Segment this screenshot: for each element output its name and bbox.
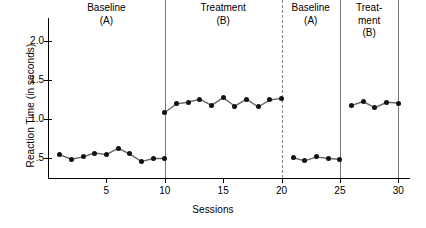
x-axis-line	[48, 178, 410, 179]
phase-label-line: (A)	[282, 15, 340, 28]
plot-area: Baseline(A)Treatment(B)Baseline(A)Treat-…	[48, 18, 410, 178]
y-tick-mark	[44, 158, 52, 159]
data-point	[349, 103, 354, 108]
data-point	[127, 151, 132, 156]
y-tick-label: 1.0	[18, 114, 44, 124]
phase-line-1	[60, 148, 165, 161]
data-point	[314, 154, 319, 159]
data-point	[326, 156, 331, 161]
data-point	[232, 104, 237, 109]
x-tick-mark	[106, 178, 107, 183]
data-point	[151, 156, 156, 161]
data-point	[81, 154, 86, 159]
x-tick-label: 30	[386, 186, 410, 196]
data-point	[302, 158, 307, 163]
phase-label-line: (B)	[165, 15, 282, 28]
data-point	[209, 103, 214, 108]
data-point	[139, 159, 144, 164]
data-point	[197, 97, 202, 102]
phase-label-2: Treatment(B)	[165, 2, 282, 27]
phase-label-line: Baseline	[282, 2, 340, 15]
data-point	[186, 100, 191, 105]
x-axis-title: Sessions	[0, 204, 426, 215]
phase-separator-4	[398, 0, 399, 178]
x-tick-mark	[165, 178, 166, 183]
series-lines	[48, 18, 410, 178]
x-tick-label: 15	[211, 186, 235, 196]
y-tick-mark	[44, 80, 52, 81]
phase-label-line: Treat-	[340, 2, 398, 15]
x-tick-mark	[282, 178, 283, 183]
x-tick-label: 20	[270, 186, 294, 196]
phase-label-line: (B)	[340, 27, 398, 40]
x-tick-mark	[223, 178, 224, 183]
x-tick-mark	[398, 178, 399, 183]
phase-label-line: Treatment	[165, 2, 282, 15]
data-point	[92, 151, 97, 156]
phase-label-4: Treat-ment(B)	[340, 2, 398, 40]
y-tick-mark	[44, 41, 52, 42]
y-axis-tick-labels: .51.01.52.0	[14, 0, 44, 228]
phase-label-line: (A)	[48, 15, 165, 28]
data-point	[104, 152, 109, 157]
data-point	[162, 156, 167, 161]
y-tick-label: .5	[18, 153, 44, 163]
phase-label-line: Baseline	[48, 2, 165, 15]
data-point	[396, 101, 401, 106]
x-tick-mark	[340, 178, 341, 183]
phase-label-3: Baseline(A)	[282, 2, 340, 27]
data-point	[221, 95, 226, 100]
data-point	[291, 155, 296, 160]
data-point	[244, 97, 249, 102]
x-tick-label: 10	[153, 186, 177, 196]
data-point	[256, 104, 261, 109]
data-point	[267, 97, 272, 102]
data-point	[337, 157, 342, 162]
phase-label-line: ment	[340, 15, 398, 28]
chart-container: Reaction Time (in seconds) Sessions .51.…	[0, 0, 426, 228]
y-tick-label: 1.5	[18, 75, 44, 85]
y-tick-mark	[44, 119, 52, 120]
data-point	[162, 110, 167, 115]
data-point	[361, 99, 366, 104]
data-point	[174, 101, 179, 106]
data-point	[57, 152, 62, 157]
y-tick-label: 2.0	[18, 36, 44, 46]
data-point	[372, 105, 377, 110]
data-point	[384, 100, 389, 105]
data-point	[69, 157, 74, 162]
data-point	[116, 146, 121, 151]
data-point	[279, 96, 284, 101]
x-tick-label: 25	[328, 186, 352, 196]
x-tick-label: 5	[94, 186, 118, 196]
phase-label-1: Baseline(A)	[48, 2, 165, 27]
